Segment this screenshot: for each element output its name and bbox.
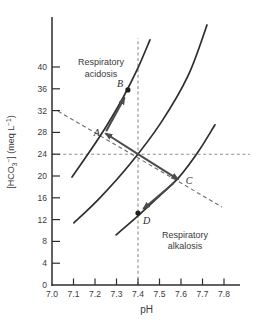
respiratory-acidosis-label: Respiratory	[78, 57, 125, 67]
y-tick-label: 16	[38, 193, 48, 203]
davenport-diagram-figure: 04812162024283236407.07.17.27.37.47.57.6…	[0, 0, 266, 335]
y-tick-label: 28	[38, 127, 48, 137]
point-d-dot	[135, 210, 140, 215]
acid-base-chart: 04812162024283236407.07.17.27.37.47.57.6…	[0, 0, 266, 335]
y-tick-label: 24	[38, 149, 48, 159]
x-axis-title: pH	[140, 304, 153, 315]
y-axis-title: [HCO3−] (meq L−1)	[5, 115, 18, 188]
x-tick-label: 7.2	[89, 289, 101, 299]
x-tick-label: 7.6	[175, 289, 187, 299]
point-b-label: B	[117, 78, 123, 89]
compensation-arrow-a-to-b	[106, 98, 124, 132]
pco2-isopleth-normal	[74, 25, 207, 223]
point-c-label: C	[186, 175, 193, 186]
y-axis-title-segment: 3	[11, 162, 18, 166]
acute-respiratory-acidosis-arrow	[105, 133, 138, 154]
respiratory-alkalosis-label: Respiratory	[162, 230, 209, 240]
x-tick-label: 7.3	[111, 289, 123, 299]
respiratory-alkalosis-label: alkalosis	[168, 241, 203, 251]
y-axis-title-segment: )	[6, 115, 16, 118]
x-tick-label: 7.7	[197, 289, 209, 299]
x-tick-label: 7.4	[132, 289, 144, 299]
y-tick-label: 20	[38, 171, 48, 181]
x-tick-label: 7.8	[218, 289, 230, 299]
y-tick-label: 12	[38, 215, 48, 225]
y-axis-title-segment: [HCO	[6, 166, 16, 189]
y-tick-label: 8	[42, 236, 47, 246]
point-d-label: D	[142, 215, 151, 226]
compensation-arrow-c-to-d	[143, 183, 174, 209]
x-tick-label: 7.0	[46, 289, 58, 299]
x-tick-label: 7.1	[68, 289, 80, 299]
y-tick-label: 36	[38, 84, 48, 94]
respiratory-acidosis-label: acidosis	[85, 69, 118, 79]
point-b-dot	[125, 87, 130, 92]
pco2-isopleth-low	[116, 125, 215, 235]
x-tick-label: 7.5	[154, 289, 166, 299]
point-a-label: A	[93, 127, 101, 138]
y-axis-title-segment: ] (meq L	[6, 126, 16, 159]
blood-buffer-line	[58, 111, 222, 207]
y-tick-label: 32	[38, 106, 48, 116]
y-tick-label: 40	[38, 62, 48, 72]
acute-respiratory-alkalosis-arrow	[138, 154, 178, 179]
y-tick-label: 4	[42, 258, 47, 268]
